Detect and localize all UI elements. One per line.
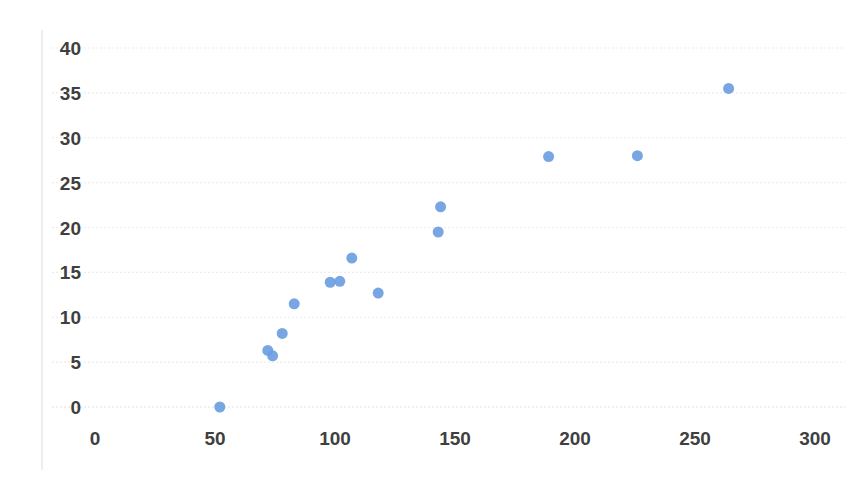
y-tick-label: 35 — [60, 83, 82, 104]
x-tick-label: 200 — [559, 428, 591, 449]
x-tick-label: 50 — [204, 428, 225, 449]
x-tick-label: 100 — [319, 428, 351, 449]
data-point — [214, 402, 225, 413]
data-point — [289, 298, 300, 309]
y-tick-label: 30 — [60, 128, 81, 149]
x-tick-label: 150 — [439, 428, 471, 449]
chart-canvas: 0510152025303540 050100150200250300 — [0, 0, 865, 483]
y-tick-label: 40 — [60, 38, 81, 59]
data-point — [346, 253, 357, 264]
data-point — [325, 277, 336, 288]
data-point — [277, 328, 288, 339]
y-tick-label: 20 — [60, 218, 81, 239]
y-tick-label: 0 — [70, 397, 81, 418]
data-point — [373, 288, 384, 299]
data-point — [435, 201, 446, 212]
y-tick-label: 5 — [70, 352, 81, 373]
x-tick-labels: 050100150200250300 — [90, 428, 831, 449]
y-tick-label: 25 — [60, 173, 82, 194]
y-tick-labels: 0510152025303540 — [60, 38, 82, 418]
data-point — [632, 150, 643, 161]
x-tick-label: 250 — [679, 428, 711, 449]
data-point — [267, 350, 278, 361]
data-point-group — [214, 83, 734, 413]
y-tick-label: 10 — [60, 307, 81, 328]
gridlines — [52, 48, 845, 407]
y-tick-label: 15 — [60, 262, 82, 283]
x-tick-label: 0 — [90, 428, 101, 449]
data-point — [334, 276, 345, 287]
data-point — [723, 83, 734, 94]
x-tick-label: 300 — [799, 428, 831, 449]
data-point — [543, 151, 554, 162]
data-point — [433, 226, 444, 237]
scatter-chart: 0510152025303540 050100150200250300 — [0, 0, 865, 483]
